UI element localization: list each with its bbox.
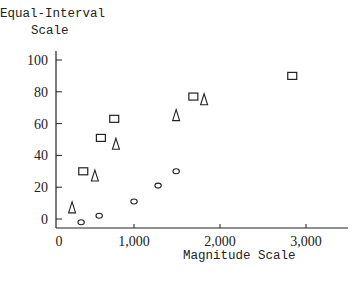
- square-marker: [110, 115, 119, 122]
- x-tick-label: 1,000: [118, 234, 150, 249]
- triangle-marker: [112, 138, 119, 149]
- circle-marker: [131, 199, 137, 204]
- y-tick-label: 100: [27, 53, 48, 68]
- x-tick-label: 3,000: [290, 234, 322, 249]
- y-tick-label: 60: [34, 117, 48, 132]
- y-tick-label: 40: [34, 148, 48, 163]
- square-marker: [288, 72, 297, 79]
- x-tick-label: 0: [56, 234, 63, 249]
- data-points: [69, 72, 297, 224]
- square-marker: [79, 168, 88, 175]
- y-tick-label: 80: [34, 85, 48, 100]
- circle-marker: [96, 213, 102, 218]
- x-tick-label: 2,000: [204, 234, 236, 249]
- axes: 02040608010001,0002,0003,000: [27, 51, 348, 249]
- circle-marker: [173, 169, 179, 174]
- square-marker: [96, 134, 105, 141]
- y-tick-label: 20: [34, 180, 48, 195]
- y-tick-label: 0: [41, 212, 48, 227]
- circle-marker: [155, 183, 161, 188]
- triangle-marker: [173, 110, 180, 121]
- circle-marker: [78, 220, 84, 225]
- triangle-marker: [69, 202, 76, 213]
- square-marker: [189, 93, 198, 100]
- triangle-marker: [91, 170, 98, 181]
- triangle-marker: [201, 94, 208, 105]
- scatter-plot: 02040608010001,0002,0003,000: [0, 0, 362, 283]
